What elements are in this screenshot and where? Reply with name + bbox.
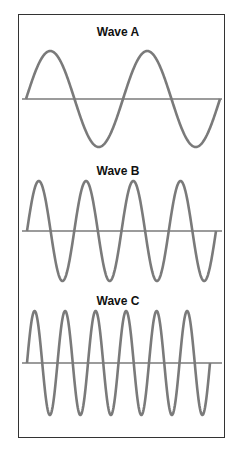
wave-b [22, 181, 222, 281]
wave-a [22, 51, 222, 147]
waves-canvas [0, 0, 236, 454]
wave-c [22, 311, 222, 415]
